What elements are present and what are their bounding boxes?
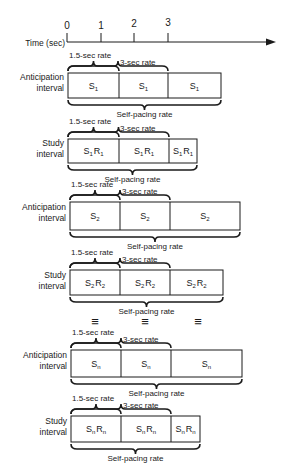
arrow-icon — [266, 39, 276, 46]
row-study-1: 1.5-sec rate3-sec rateS1R1S1R1S1R1Studyi… — [37, 117, 197, 184]
self-pacing-label: Self-pacing rate — [116, 110, 173, 119]
row-study-2: 1.5-sec rate3-sec rateS2R2S2R2S2R2Studyi… — [39, 248, 223, 316]
rate-1-5-sec-label: 1.5-sec rate — [69, 117, 112, 126]
interval-label-line2: interval — [39, 281, 67, 291]
brace-self-pacing — [68, 165, 197, 175]
rate-diagram: 0 1 2 3 Time (sec) 1.5-sec rate3-sec rat… — [0, 0, 285, 473]
interval-label-line2: interval — [37, 149, 65, 159]
tick-3: 3 — [165, 17, 171, 28]
rate-1-5-sec-label: 1.5-sec rate — [71, 248, 114, 257]
interval-label-line1: Anticipation — [23, 350, 67, 360]
ellipsis-mark: ≡ — [194, 314, 202, 329]
row-anticipation-1: 1.5-sec rate3-sec rateS1S1S1Anticipation… — [20, 51, 221, 119]
ellipsis-mark: ≡ — [91, 314, 99, 329]
tick-1: 1 — [98, 20, 104, 31]
brace-self-pacing — [70, 297, 223, 307]
rate-1-5-sec-label: 1.5-sec rate — [69, 51, 112, 60]
self-pacing-label: Self-pacing rate — [127, 242, 184, 251]
rate-1-5-sec-label: 1.5-sec rate — [72, 328, 115, 337]
interval-label-line2: interval — [37, 83, 65, 93]
interval-label-line1: Study — [42, 138, 64, 148]
brace-self-pacing — [70, 232, 240, 242]
interval-label-line1: Study — [45, 416, 67, 426]
row-study-n: 1.5-sec rate3-sec rateSnRnSnRnSnRnStudyi… — [40, 394, 200, 463]
tick-2: 2 — [131, 18, 137, 29]
interval-label-line2: interval — [40, 427, 68, 437]
rate-1-5-sec-label: 1.5-sec rate — [72, 394, 115, 403]
interval-label-line1: Study — [44, 270, 66, 280]
row-anticipation-2: 1.5-sec rate3-sec rateS2S2S2Anticipation… — [22, 180, 240, 251]
brace-self-pacing — [71, 444, 200, 454]
rate-1-5-sec-label: 1.5-sec rate — [71, 180, 114, 189]
self-pacing-label: Self-pacing rate — [128, 389, 185, 398]
interval-label-line1: Anticipation — [22, 202, 66, 212]
continuation-marks: ≡≡≡ — [91, 314, 202, 329]
brace-self-pacing — [71, 379, 242, 389]
tick-0: 0 — [64, 20, 70, 31]
time-axis: 0 1 2 3 Time (sec) — [25, 17, 276, 48]
row-anticipation-n: 1.5-sec rate3-sec rateSnSnSnAnticipation… — [23, 328, 242, 398]
interval-label-line1: Anticipation — [20, 72, 64, 82]
interval-label-line2: interval — [39, 213, 67, 223]
self-pacing-label: Self-pacing rate — [107, 454, 164, 463]
interval-label-line2: interval — [40, 361, 68, 371]
brace-self-pacing — [68, 100, 221, 110]
axis-label: Time (sec) — [25, 38, 65, 48]
ellipsis-mark: ≡ — [141, 314, 149, 329]
